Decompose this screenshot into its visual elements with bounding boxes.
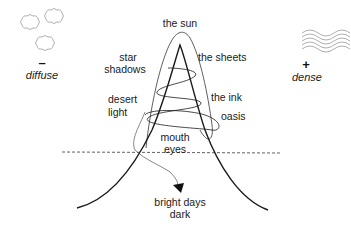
waves-icon: [302, 30, 350, 52]
label-mouth: mouth: [155, 131, 195, 143]
label-the-sheets: the sheets: [198, 51, 246, 63]
clouds-icon: [21, 9, 64, 51]
diagram-canvas: [0, 0, 351, 229]
label-the-sun: the sun: [155, 17, 205, 29]
label-star: star: [108, 51, 148, 63]
label-oasis: oasis: [221, 110, 246, 122]
minus-sign: –: [32, 57, 52, 69]
label-diffuse: diffuse: [20, 69, 64, 81]
label-bright-days: bright days: [145, 196, 215, 208]
arrowhead-icon: [173, 183, 184, 193]
label-light: light: [108, 106, 127, 118]
label-dense: dense: [285, 71, 329, 83]
label-desert: desert: [108, 93, 137, 105]
label-shadows: shadows: [100, 63, 150, 75]
label-dark: dark: [145, 208, 215, 220]
label-the-ink: the ink: [211, 91, 242, 103]
label-eyes: eyes: [155, 143, 195, 155]
plus-sign: +: [296, 59, 316, 71]
